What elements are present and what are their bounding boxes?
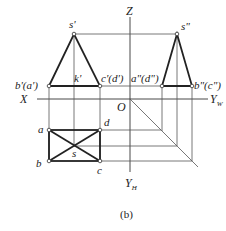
point-c-prime	[98, 84, 102, 88]
label-s-double-prime: s"	[181, 20, 190, 32]
point-d	[98, 128, 102, 132]
label-s: s	[72, 147, 76, 159]
label-c-prime-d-prime: c'(d')	[101, 72, 124, 85]
label-k-prime: k'	[74, 72, 82, 84]
label-a-double-prime-d-double-prime: a"(d")	[131, 72, 159, 85]
label-s-prime: s'	[69, 18, 76, 30]
label-a: a	[38, 123, 44, 135]
label-c: c	[97, 164, 102, 176]
point-s-prime	[72, 32, 76, 36]
point-a-double-prime	[160, 84, 164, 88]
point-c	[98, 159, 102, 163]
label-z: Z	[126, 4, 133, 18]
point-b-prime	[47, 84, 51, 88]
point-a	[47, 128, 51, 132]
label-b-prime-a-prime: b'(a')	[15, 79, 38, 92]
label-x: X	[19, 92, 28, 106]
figure-caption: (b)	[120, 208, 133, 221]
point-b	[47, 159, 51, 163]
miter-line	[130, 99, 198, 167]
label-b: b	[36, 157, 42, 169]
point-s-double-prime	[175, 32, 179, 36]
label-yh: YH	[125, 176, 138, 192]
label-yw: YW	[210, 92, 224, 108]
label-d: d	[104, 116, 110, 128]
label-b-double-prime-c-double-prime: b"(c")	[194, 79, 221, 92]
label-origin: O	[117, 100, 126, 114]
orthographic-projection-diagram: Z X O YW YH s' s" b'(a') k' c'(d') a"(d"…	[0, 0, 226, 231]
